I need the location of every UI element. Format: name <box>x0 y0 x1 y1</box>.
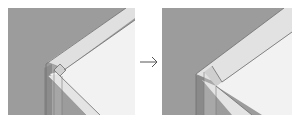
arrow-right-icon <box>139 55 159 69</box>
corner-after-illustration <box>162 8 292 115</box>
before-panel <box>8 8 135 115</box>
corner-before-illustration <box>8 8 135 115</box>
after-panel <box>162 8 292 115</box>
